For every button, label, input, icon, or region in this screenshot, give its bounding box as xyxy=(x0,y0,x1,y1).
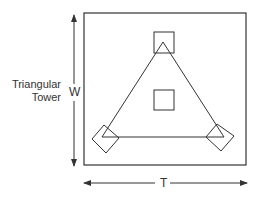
tower-type-label: Triangular Tower xyxy=(12,78,61,104)
top-leg-block xyxy=(154,32,174,53)
triangular-tower-diagram: Triangular Tower W T xyxy=(0,0,260,198)
tower-label-line2: Tower xyxy=(12,91,61,104)
center-block xyxy=(154,90,174,110)
tower-label-line1: Triangular xyxy=(12,78,61,91)
width-label: W xyxy=(69,86,80,99)
outer-boundary-square xyxy=(84,13,246,165)
depth-label: T xyxy=(158,177,169,190)
left-leg-diamond xyxy=(92,125,119,153)
